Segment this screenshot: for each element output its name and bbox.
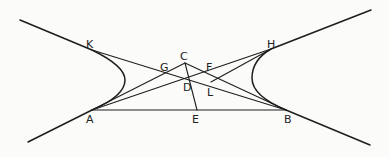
label-k: K: [86, 38, 94, 51]
label-a: A: [86, 113, 94, 126]
label-g: G: [160, 61, 169, 74]
segment-ac: [92, 63, 185, 110]
segment-cb: [185, 63, 286, 110]
left-hyperbola-branch: [20, 20, 125, 142]
label-f: F: [206, 61, 212, 74]
label-e: E: [192, 113, 199, 126]
label-d: D: [183, 81, 191, 94]
label-h: H: [267, 38, 275, 51]
segment-lh: [211, 49, 271, 82]
right-hyperbola-branch: [252, 10, 371, 145]
label-l: L: [207, 86, 214, 99]
hyperbola-diagram: K A G C D E F L H B: [0, 0, 389, 157]
label-b: B: [284, 113, 292, 126]
label-c: C: [180, 50, 188, 63]
